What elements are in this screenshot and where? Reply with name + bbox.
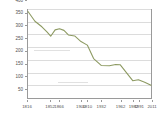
- y-axis-tick-label: 300: [0, 23, 23, 28]
- x-axis: 1816185218661900191019321962198219912011: [27, 100, 152, 118]
- x-axis-tick-label: 1866: [54, 104, 64, 109]
- x-axis-tick-mark: [133, 100, 134, 102]
- y-axis-tick-label: 250: [0, 36, 23, 41]
- x-axis-tick-label: 1932: [97, 104, 107, 109]
- x-axis-tick-label: 1816: [22, 104, 32, 109]
- y-axis-tick-mark: [25, 0, 27, 1]
- y-axis-tick-label: 400: [0, 0, 23, 3]
- x-axis-tick-label: 1910: [82, 104, 92, 109]
- x-axis-tick-mark: [121, 100, 122, 102]
- x-axis-tick-mark: [139, 100, 140, 102]
- y-axis: 40035030025020015010050: [0, 0, 27, 89]
- y-axis-tick-label: 100: [0, 74, 23, 79]
- x-axis-tick-mark: [27, 100, 28, 102]
- y-axis-tick-label: 150: [0, 61, 23, 66]
- x-axis-tick-label: 2011: [147, 104, 156, 109]
- plot-area: [27, 9, 152, 98]
- x-axis-tick-mark: [87, 100, 88, 102]
- x-axis-tick-mark: [81, 100, 82, 102]
- x-axis-tick-mark: [101, 100, 102, 102]
- x-axis-tick-mark: [50, 100, 51, 102]
- y-axis-tick-label: 50: [0, 87, 23, 92]
- y-axis-tick-label: 200: [0, 48, 23, 53]
- x-axis-tick-mark: [59, 100, 60, 102]
- x-axis-line: [27, 98, 152, 99]
- series-line: [28, 9, 151, 98]
- line-chart-widget: 40035030025020015010050 1816185218661900…: [0, 0, 163, 120]
- y-axis-tick-label: 350: [0, 10, 23, 15]
- x-axis-tick-mark: [152, 100, 153, 102]
- x-axis-tick-label: 1991: [134, 104, 144, 109]
- x-axis-tick-label: 1962: [116, 104, 126, 109]
